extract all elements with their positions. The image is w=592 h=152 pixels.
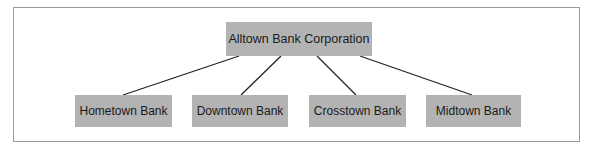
node-hometown-bank: Hometown Bank	[75, 95, 172, 127]
node-downtown-bank: Downtown Bank	[192, 95, 288, 127]
node-label: Downtown Bank	[197, 104, 284, 118]
node-label: Alltown Bank Corporation	[228, 32, 369, 46]
node-crosstown-bank: Crosstown Bank	[309, 95, 406, 127]
connector-downtown	[241, 56, 281, 95]
node-label: Hometown Bank	[79, 104, 167, 118]
connector-crosstown	[317, 56, 356, 95]
node-midtown-bank: Midtown Bank	[426, 95, 521, 127]
node-label: Midtown Bank	[436, 104, 511, 118]
connector-midtown	[360, 56, 472, 95]
node-label: Crosstown Bank	[314, 104, 401, 118]
connector-hometown	[123, 56, 239, 95]
node-alltown-bank-corporation: Alltown Bank Corporation	[226, 22, 372, 56]
